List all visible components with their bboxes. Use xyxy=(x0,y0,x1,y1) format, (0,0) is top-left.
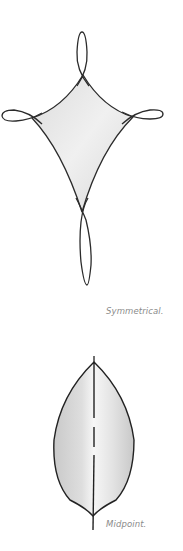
diamond-group xyxy=(2,32,163,285)
leaf-group xyxy=(54,356,134,530)
leaf-center-line-lower xyxy=(93,455,94,530)
symmetrical-diamond-illustration xyxy=(0,0,183,551)
bottom-loop xyxy=(76,198,91,285)
diamond-body xyxy=(32,75,133,212)
caption-symmetrical: Symmetrical. xyxy=(106,306,164,316)
top-loop xyxy=(77,32,89,86)
caption-midpoint: Midpoint. xyxy=(106,519,146,529)
